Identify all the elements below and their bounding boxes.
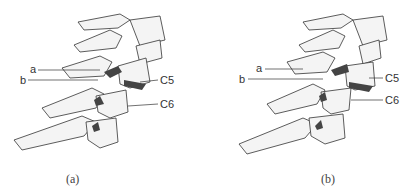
cervical-spine-illustration-b: [203, 0, 405, 194]
label-a: a: [30, 64, 36, 75]
panel-b: a b C5 C6 (b): [203, 0, 405, 194]
panel-a: a b C5 C6 (a): [0, 0, 202, 194]
cervical-spine-illustration-a: [0, 0, 202, 194]
label-c6: C6: [385, 95, 399, 106]
caption-a: (a): [66, 172, 79, 187]
caption-b: (b): [321, 172, 335, 187]
label-c6: C6: [160, 99, 174, 110]
label-c5: C5: [385, 73, 399, 84]
label-a: a: [256, 63, 262, 74]
label-b: b: [20, 75, 26, 86]
label-b: b: [239, 74, 245, 85]
label-c5: C5: [160, 75, 174, 86]
